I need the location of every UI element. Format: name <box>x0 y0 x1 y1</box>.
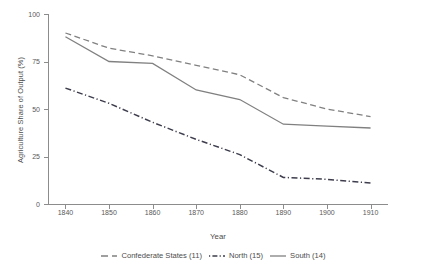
chart-legend: Confederate States (11)North (15)South (… <box>0 252 427 260</box>
x-tick-mark <box>65 205 66 209</box>
series-line <box>65 37 370 128</box>
x-tick-label: 1840 <box>45 209 85 216</box>
x-tick-mark <box>283 205 284 209</box>
y-tick-label: 75 <box>18 58 40 65</box>
y-tick-label: 0 <box>18 201 40 208</box>
x-tick-mark <box>109 205 110 209</box>
x-axis-title: Year <box>48 232 388 241</box>
dashdot-line-icon <box>209 252 225 260</box>
chart-figure: Agriculture Share of Output (%) 02550751… <box>0 0 427 272</box>
x-tick-mark <box>196 205 197 209</box>
solid-line-icon <box>270 252 286 260</box>
series-lines <box>48 14 388 204</box>
dashed-line-icon <box>101 252 117 260</box>
series-line <box>65 33 370 117</box>
x-tick-label: 1850 <box>89 209 129 216</box>
y-tick-label: 25 <box>18 153 40 160</box>
legend-item-label: South (14) <box>290 252 325 260</box>
x-tick-label: 1870 <box>176 209 216 216</box>
x-tick-label: 1880 <box>220 209 260 216</box>
x-tick-mark <box>371 205 372 209</box>
series-line <box>65 88 370 183</box>
legend-item[interactable]: Confederate States (11) <box>101 252 201 260</box>
x-axis-line <box>48 204 388 205</box>
legend-item[interactable]: North (15) <box>209 252 263 260</box>
y-tick-mark <box>44 204 48 205</box>
x-tick-label: 1890 <box>263 209 303 216</box>
y-tick-label: 100 <box>18 11 40 18</box>
x-tick-label: 1860 <box>133 209 173 216</box>
legend-item-label: North (15) <box>229 252 263 260</box>
legend-item-label: Confederate States (11) <box>121 252 201 260</box>
x-tick-mark <box>240 205 241 209</box>
plot-area <box>48 14 388 204</box>
x-tick-label: 1910 <box>351 209 391 216</box>
x-tick-mark <box>327 205 328 209</box>
x-tick-mark <box>153 205 154 209</box>
x-tick-label: 1900 <box>307 209 347 216</box>
legend-item[interactable]: South (14) <box>270 252 325 260</box>
y-tick-label: 50 <box>18 106 40 113</box>
